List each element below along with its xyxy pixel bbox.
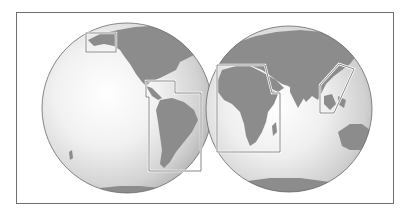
map-figure [0,0,411,218]
world-map [0,0,411,218]
eastern-hemisphere [206,26,372,194]
western-hemisphere [42,23,212,193]
